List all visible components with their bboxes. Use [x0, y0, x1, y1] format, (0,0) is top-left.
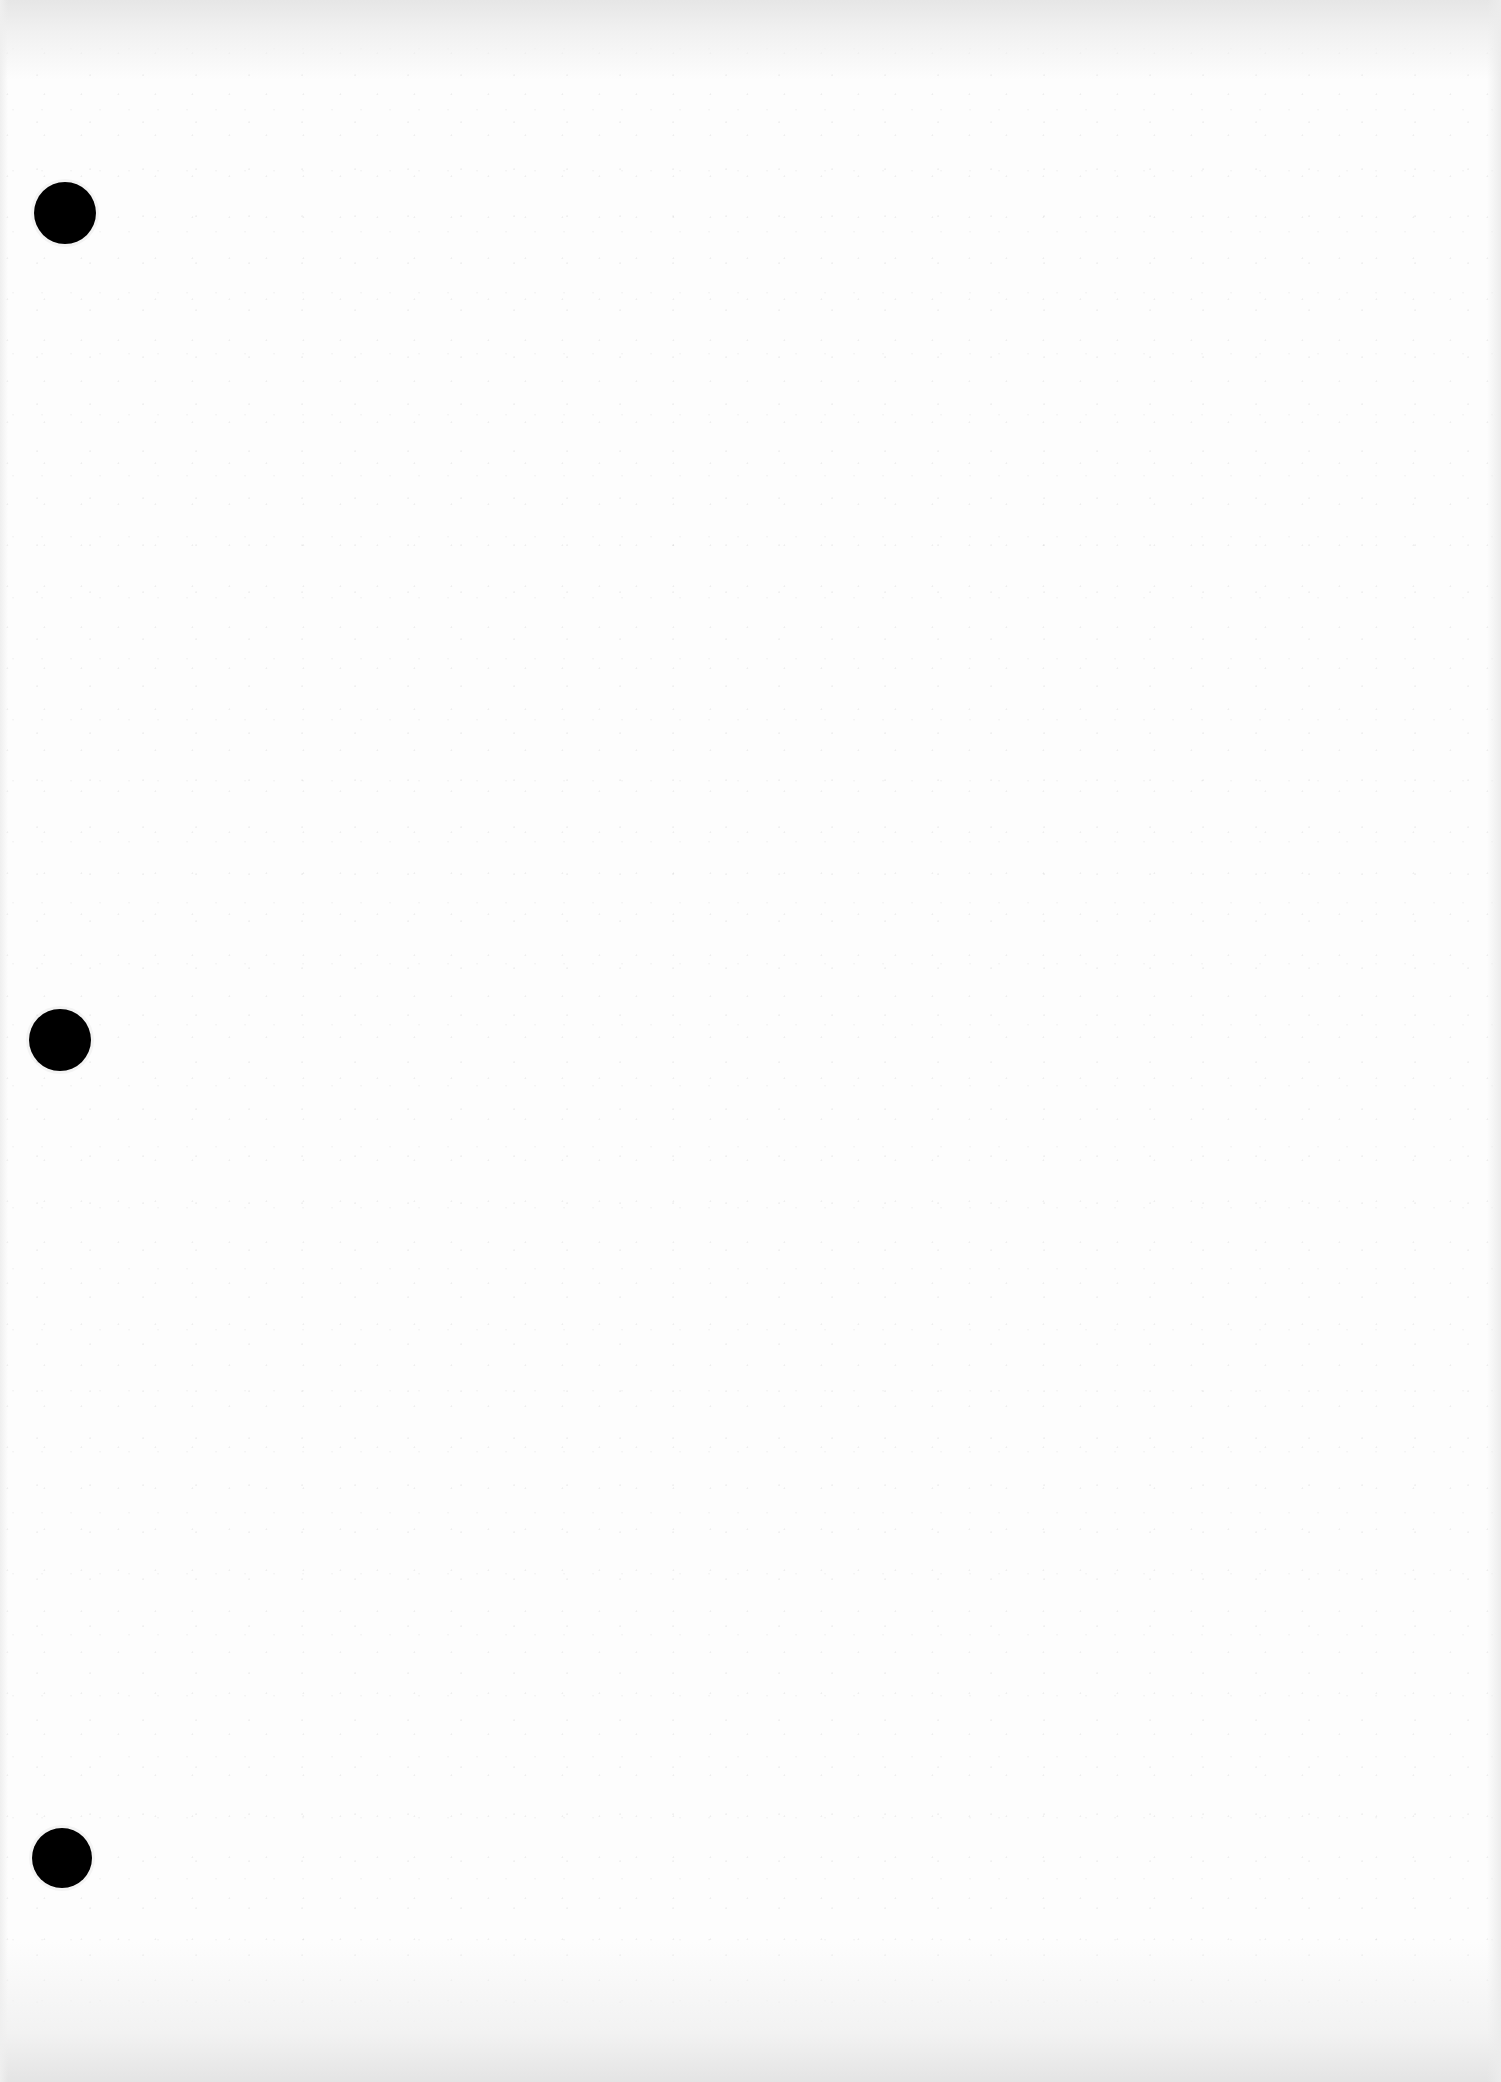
blank-page	[0, 0, 1501, 2082]
scan-edge-bottom	[0, 1942, 1501, 2082]
scan-edge-left	[0, 0, 8, 2082]
punch-hole-middle	[29, 1009, 91, 1071]
scan-edge-right	[1487, 0, 1501, 2082]
scan-edge-top	[0, 0, 1501, 80]
punch-hole-bottom	[32, 1828, 92, 1888]
punch-hole-top	[34, 182, 96, 244]
paper-texture	[0, 0, 1501, 2082]
